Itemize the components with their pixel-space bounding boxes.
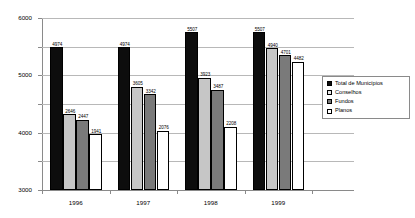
bar[interactable]: 4701 <box>279 55 292 190</box>
bar[interactable]: 3605 <box>131 87 144 190</box>
bar-value-label: 2646 <box>65 110 75 115</box>
bar[interactable]: 3923 <box>198 78 211 190</box>
x-tick-mark <box>110 190 111 194</box>
bar-value-label: 3342 <box>146 90 156 95</box>
bar[interactable]: 3342 <box>144 94 157 190</box>
bar-value-label: 3605 <box>133 82 143 87</box>
x-axis-line <box>42 190 354 191</box>
bar[interactable]: 4974 <box>50 47 63 190</box>
x-tick-mark <box>177 190 178 194</box>
bar-value-label: 5507 <box>187 28 197 33</box>
legend-item[interactable]: Planos <box>327 108 405 114</box>
x-axis-category-label: 1997 <box>110 200 178 206</box>
legend-swatch-icon <box>327 109 332 114</box>
legend-item[interactable]: Fundos <box>327 99 405 105</box>
y-tick-label: 6000 <box>18 15 32 21</box>
bar-value-label: 2076 <box>159 126 169 131</box>
bar[interactable]: 4940 <box>266 48 279 190</box>
bar[interactable]: 5507 <box>253 32 266 190</box>
bar-value-label: 5507 <box>255 28 265 33</box>
legend-item[interactable]: Conselhos <box>327 90 405 96</box>
bar[interactable]: 2208 <box>224 127 237 190</box>
bar[interactable]: 2076 <box>157 131 170 191</box>
chart-legend: Total de MunicípiosConselhosFundosPlanos <box>322 76 410 119</box>
bar-value-label: 1941 <box>91 130 101 135</box>
legend-label: Planos <box>335 108 352 114</box>
bar-group: 55073923348722081998 <box>177 18 245 190</box>
bar-value-label: 2208 <box>226 122 236 127</box>
y-tick-label: 4000 <box>18 130 32 136</box>
plot-area: 0100020003000400050006000 49742646244719… <box>42 18 312 190</box>
bar-value-label: 4940 <box>268 44 278 49</box>
legend-label: Fundos <box>335 99 354 105</box>
bar[interactable]: 3487 <box>211 90 224 190</box>
x-axis-category-label: 1996 <box>42 200 110 206</box>
bar[interactable]: 5507 <box>185 32 198 190</box>
x-axis-category-label: 1999 <box>245 200 313 206</box>
x-tick-mark <box>42 190 43 194</box>
y-tick-label: 5000 <box>18 72 32 78</box>
x-tick-mark <box>312 190 313 194</box>
bar-group: 55074940470144821999 <box>245 18 313 190</box>
x-axis-category-label: 1998 <box>177 200 245 206</box>
bar-value-label: 4701 <box>281 51 291 56</box>
bar-value-label: 4974 <box>120 43 130 48</box>
bar[interactable]: 2447 <box>76 120 89 190</box>
legend-swatch-icon <box>327 99 332 104</box>
bar-group: 49743605334220761997 <box>110 18 178 190</box>
legend-label: Conselhos <box>335 90 361 96</box>
bar[interactable]: 4482 <box>292 62 305 190</box>
bar-value-label: 4974 <box>52 43 62 48</box>
bar-value-label: 3923 <box>200 73 210 78</box>
legend-swatch-icon <box>327 81 332 86</box>
bar-group: 49742646244719411996 <box>42 18 110 190</box>
legend-label: Total de Municípios <box>335 81 383 87</box>
legend-swatch-icon <box>327 90 332 95</box>
x-tick-mark <box>245 190 246 194</box>
bar[interactable]: 1941 <box>89 134 102 190</box>
bar-value-label: 4482 <box>294 57 304 62</box>
bar[interactable]: 2646 <box>63 114 76 190</box>
bar-value-label: 3487 <box>213 85 223 90</box>
bar-chart: 0100020003000400050006000 49742646244719… <box>0 0 415 218</box>
y-tick-label: 3000 <box>18 187 32 193</box>
legend-item[interactable]: Total de Municípios <box>327 81 405 87</box>
bar[interactable]: 4974 <box>118 47 131 190</box>
bar-value-label: 2447 <box>78 115 88 120</box>
